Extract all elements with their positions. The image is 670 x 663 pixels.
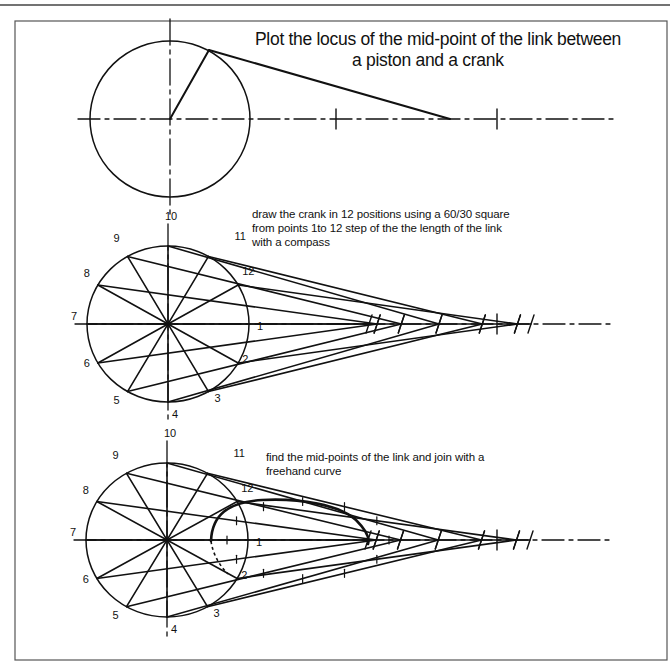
position-label-5: 5 xyxy=(113,609,119,621)
link-position-10 xyxy=(168,246,439,324)
position-label-12: 12 xyxy=(241,482,253,494)
position-label-4: 4 xyxy=(171,623,177,635)
title-line-2: a piston and a crank xyxy=(352,50,504,71)
link-position-6 xyxy=(98,324,377,363)
position-label-11: 11 xyxy=(234,447,245,459)
figure-crank-positions xyxy=(75,224,613,424)
position-label-3: 3 xyxy=(215,392,221,404)
position-label-2: 2 xyxy=(242,353,248,365)
position-label-4: 4 xyxy=(172,408,178,420)
position-label-8: 8 xyxy=(83,484,89,496)
position-label-9: 9 xyxy=(113,449,119,461)
position-label-11: 11 xyxy=(235,230,246,242)
position-label-1: 1 xyxy=(256,536,262,548)
link-position-8 xyxy=(98,285,377,324)
instruction-step1-line3: with a compass xyxy=(252,235,330,249)
position-label-6: 6 xyxy=(83,573,89,585)
instruction-step2-line2: freehand curve xyxy=(266,464,341,478)
drawing-sheet: Plot the locus of the mid-point of the l… xyxy=(0,0,670,663)
instruction-step2-line1: find the mid-points of the link and join… xyxy=(266,450,484,464)
position-label-7: 7 xyxy=(70,526,76,538)
position-label-5: 5 xyxy=(114,394,120,406)
link-position-3 xyxy=(209,324,483,392)
position-label-12: 12 xyxy=(242,265,254,277)
position-label-1: 1 xyxy=(257,320,263,332)
figure-locus xyxy=(74,441,613,639)
crank-arm xyxy=(170,50,209,119)
instruction-step1-line2: from points 1to 12 step of the the lengt… xyxy=(252,221,502,235)
technical-drawing xyxy=(0,0,670,663)
instruction-step1-line1: draw the crank in 12 positions using a 6… xyxy=(252,207,510,221)
position-label-7: 7 xyxy=(71,310,77,322)
position-label-10: 10 xyxy=(165,210,177,222)
position-label-6: 6 xyxy=(84,357,90,369)
position-label-3: 3 xyxy=(214,607,220,619)
title-line-1: Plot the locus of the mid-point of the l… xyxy=(255,29,621,50)
position-label-9: 9 xyxy=(114,232,120,244)
position-label-2: 2 xyxy=(241,569,247,581)
position-label-8: 8 xyxy=(84,267,90,279)
link-position-4 xyxy=(168,324,439,402)
position-label-10: 10 xyxy=(164,427,176,439)
